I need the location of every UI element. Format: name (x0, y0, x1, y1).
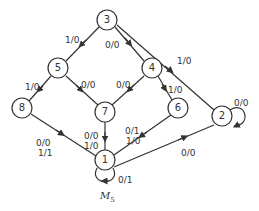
edge-4-6-label: 1/0 (168, 85, 182, 95)
machine-name-letter: M (100, 190, 110, 201)
edge-5-8-label: 1/0 (25, 82, 39, 92)
node-1-label: 1 (95, 150, 115, 170)
edge-3-5-label: 1/0 (65, 35, 79, 45)
edge-3-4-label: 0/0 (105, 40, 119, 50)
node-5-label: 5 (48, 58, 68, 78)
edge-1-1-label: 0/1 (118, 175, 132, 185)
edge-6-1-label-a: 0/1 (125, 126, 139, 136)
node-6-label: 6 (168, 98, 188, 118)
edge-3-2-label: 1/0 (177, 56, 191, 66)
node-8-label: 8 (12, 98, 32, 118)
machine-name: M5 (100, 190, 115, 204)
machine-name-subscript: 5 (110, 196, 114, 204)
edge-4-7-label: 0/0 (116, 80, 130, 90)
edge-8-1-label-a: 0/0 (36, 138, 50, 148)
edge-7-1-label-a: 0/0 (84, 131, 98, 141)
edge-7-1-label-b: 1/0 (84, 141, 98, 151)
edge-3-2 (117, 25, 214, 110)
edge-2-2-label: 0/0 (234, 98, 248, 108)
edge-1-2-label: 0/0 (181, 148, 195, 158)
state-diagram: 3 5 4 8 7 6 2 1 1/0 0/0 1/0 1/0 0/0 0/0 … (0, 0, 259, 211)
node-3-label: 3 (97, 10, 117, 30)
edge-8-1-label-b: 1/1 (38, 148, 52, 158)
node-2-label: 2 (212, 106, 232, 126)
node-7-label: 7 (95, 102, 115, 122)
edge-6-1-label-b: 1/0 (126, 136, 140, 146)
node-4-label: 4 (142, 58, 162, 78)
edge-5-7-label: 0/0 (81, 80, 95, 90)
